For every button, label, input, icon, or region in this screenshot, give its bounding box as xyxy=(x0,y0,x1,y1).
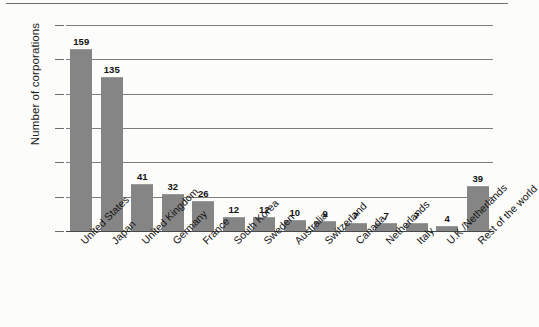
x-axis-labels-group: United StatesJapanUnited KingdomGermanyF… xyxy=(66,236,526,326)
y-tick-mark-90 xyxy=(55,128,64,129)
y-tick-mark-30 xyxy=(55,197,64,198)
gridline-120 xyxy=(66,94,493,95)
gridline-30 xyxy=(66,197,493,198)
bar-slot: 7 xyxy=(345,25,367,231)
y-tick-mark-150 xyxy=(55,59,64,60)
gridline-90 xyxy=(66,128,493,129)
gridline-150 xyxy=(66,59,493,60)
bar-slot: 12 xyxy=(223,25,245,231)
y-tick-mark-0 xyxy=(55,231,64,232)
bar-value-label: 39 xyxy=(455,173,501,184)
bar-slot: 41 xyxy=(131,25,153,231)
y-tick-mark-180 xyxy=(55,25,64,26)
bar-slot: 26 xyxy=(192,25,214,231)
bar-slot: 10 xyxy=(284,25,306,231)
bar[interactable] xyxy=(70,49,92,231)
y-tick-mark-60 xyxy=(55,162,64,163)
bar-value-label: 159 xyxy=(58,36,104,47)
y-axis-title: Number of corporations xyxy=(29,4,41,164)
bar-value-label: 135 xyxy=(89,64,135,75)
figure-top-rule xyxy=(6,3,508,4)
gridline-60 xyxy=(66,162,493,163)
bar-slot: 4 xyxy=(436,25,458,231)
y-tick-mark-120 xyxy=(55,94,64,95)
bar-slot: 159 xyxy=(70,25,92,231)
gridline-180 xyxy=(66,25,493,26)
bar-slot: 7 xyxy=(375,25,397,231)
bar-slot: 9 xyxy=(314,25,336,231)
